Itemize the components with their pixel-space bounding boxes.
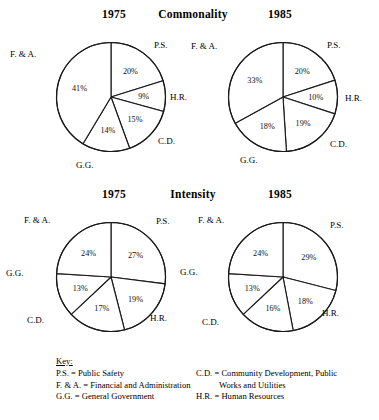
label-cd-commonality-1975: C.D.: [158, 137, 175, 146]
label-ps-intensity-1975: P.S.: [156, 217, 170, 226]
slice-value-gg: 14%: [100, 126, 115, 135]
slice-value-gg: 13%: [73, 284, 88, 293]
label-fa-commonality-1975: F. & A.: [10, 50, 36, 59]
label-gg-commonality-1985: G.G.: [240, 156, 258, 165]
pie-chart-commonality-1975: 20%9%15%14%41%: [55, 41, 167, 153]
label-cd-commonality-1985: C.D.: [330, 140, 347, 149]
slice-value-fa: 41%: [72, 84, 87, 93]
label-gg-commonality-1975: G.G.: [76, 161, 94, 170]
key-entry-cd-continuation: Works and Utilities: [196, 380, 376, 391]
slice-value-fa: 24%: [253, 249, 268, 258]
slice-value-ps: 20%: [295, 67, 310, 76]
slice-value-hr: 10%: [308, 93, 323, 102]
pie-commonality-1975-svg: 20%9%15%14%41%: [55, 41, 167, 153]
intensity-left-year: 1975: [86, 188, 142, 200]
label-cd-intensity-1985: C.D.: [202, 318, 219, 327]
slice-value-ps: 27%: [128, 251, 143, 260]
key-entry-cd: C.D. = Community Development, Public: [196, 368, 376, 379]
intensity-section: 1975 Intensity 1985 27%19%17%13%24% F. &…: [0, 180, 379, 365]
slice-value-ps: 20%: [123, 67, 138, 76]
commonality-section: 1975 Commonality 1985 20%9%15%14%41% F. …: [0, 0, 379, 185]
label-ps-commonality-1985: P.S.: [327, 41, 341, 50]
pie-chart-commonality-1985: 20%10%19%18%33%: [227, 41, 339, 153]
key-legend: Key: P.S. = Public Safety F. & A. = Fina…: [56, 356, 366, 368]
label-hr-commonality-1975: H.R.: [170, 93, 187, 102]
label-gg-intensity-1985: G.G.: [180, 268, 198, 277]
label-ps-commonality-1975: P.S.: [154, 41, 168, 50]
slice-value-ps: 29%: [301, 253, 316, 262]
commonality-header: 1975 Commonality 1985: [0, 8, 379, 26]
intensity-title: Intensity: [148, 188, 238, 200]
slice-value-cd: 16%: [265, 304, 280, 313]
commonality-title: Commonality: [148, 8, 238, 20]
slice-value-cd: 17%: [94, 304, 109, 313]
label-gg-intensity-1975: G.G.: [6, 269, 24, 278]
slice-value-hr: 18%: [298, 297, 313, 306]
intensity-header: 1975 Intensity 1985: [0, 188, 379, 206]
slice-value-fa: 33%: [247, 76, 262, 85]
label-hr-commonality-1985: H.R.: [345, 94, 362, 103]
intensity-right-year: 1985: [252, 188, 308, 200]
label-fa-commonality-1985: F. & A.: [191, 42, 217, 51]
key-column-right: C.D. = Community Development, Public Wor…: [196, 368, 376, 402]
slice-value-hr: 19%: [128, 295, 143, 304]
key-entry-hr: H.R. = Human Resources: [196, 391, 376, 402]
label-hr-intensity-1975: H.R.: [150, 314, 167, 323]
label-cd-intensity-1975: C.D.: [27, 316, 44, 325]
key-title: Key:: [56, 356, 366, 367]
slice-value-fa: 24%: [81, 249, 96, 258]
pie-commonality-1985-svg: 20%10%19%18%33%: [227, 41, 339, 153]
label-ps-intensity-1985: P.S.: [330, 221, 344, 230]
slice-value-cd: 19%: [296, 119, 311, 128]
label-hr-intensity-1985: H.R.: [322, 309, 339, 318]
slice-value-cd: 15%: [128, 115, 143, 124]
slice-value-gg: 13%: [245, 284, 260, 293]
commonality-right-year: 1985: [252, 8, 308, 20]
label-fa-intensity-1985: F. & A.: [198, 216, 224, 225]
slice-value-hr: 9%: [138, 92, 149, 101]
label-fa-intensity-1975: F. & A.: [24, 216, 50, 225]
slice-value-gg: 18%: [260, 122, 275, 131]
commonality-left-year: 1975: [86, 8, 142, 20]
